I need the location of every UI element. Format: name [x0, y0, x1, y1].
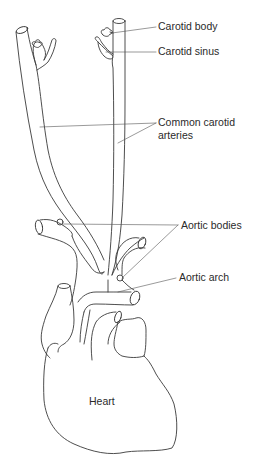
- right-carotid-artery: [95, 19, 125, 276]
- left-auricle: [114, 318, 146, 358]
- aortic-arch-body: [72, 236, 147, 312]
- leader-lines: [40, 27, 178, 292]
- label-carotid-body: Carotid body: [158, 20, 218, 33]
- vena-cava: [41, 284, 74, 359]
- chemoreceptor-diagram: Carotid body Carotid sinus Common caroti…: [0, 0, 254, 468]
- label-carotid-sinus: Carotid sinus: [158, 45, 219, 58]
- label-common-carotid-line2: arteries: [158, 129, 193, 142]
- anatomy-drawing: [0, 0, 254, 468]
- label-common-carotid-line1: Common carotid: [158, 116, 235, 129]
- label-heart: Heart: [89, 395, 115, 408]
- pulmonary-trunk: [80, 310, 123, 360]
- label-aortic-bodies: Aortic bodies: [181, 219, 242, 232]
- left-carotid-artery: [15, 25, 104, 274]
- label-aortic-arch: Aortic arch: [179, 271, 229, 284]
